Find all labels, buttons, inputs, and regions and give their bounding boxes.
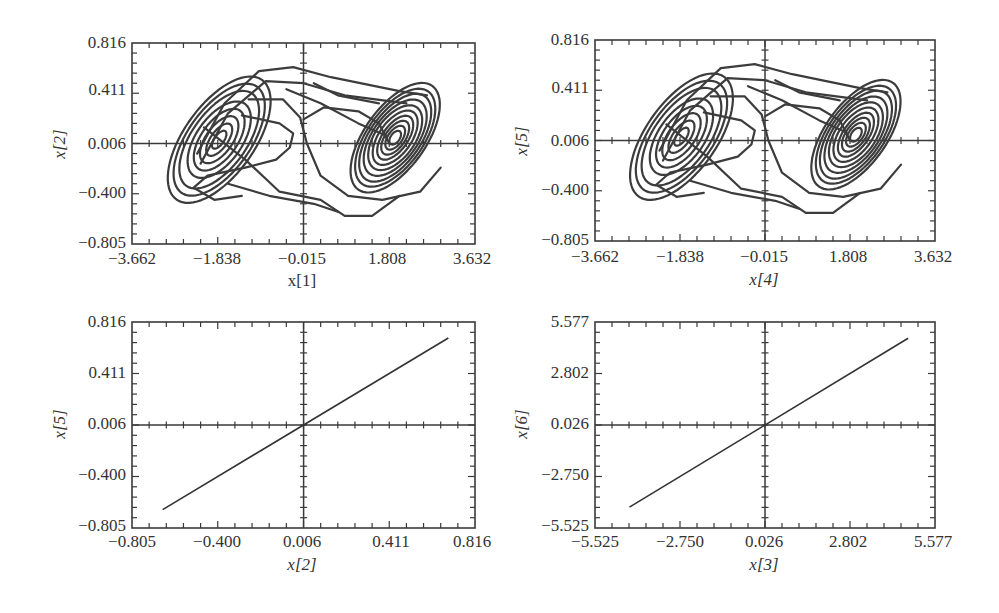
y-tick-label: −0.400: [46, 183, 126, 203]
y-tick-label: 5.577: [509, 312, 589, 332]
y-tick-label: 0.816: [509, 30, 589, 50]
y-axis-title: x[5]: [50, 394, 70, 454]
x-tick-label: 3.632: [432, 249, 512, 269]
attractor-trajectory: [228, 184, 338, 212]
attractor-trajectory: [314, 83, 379, 103]
y-tick-label: 0.816: [46, 33, 126, 53]
x-tick-label: 0.026: [724, 532, 804, 552]
x-tick-label: −3.662: [92, 249, 172, 269]
x-tick-label: −0.805: [92, 532, 172, 552]
y-tick-label: 0.411: [46, 80, 126, 100]
x-tick-label: 0.816: [432, 532, 512, 552]
x-tick-label: 1.808: [808, 247, 888, 267]
sync-line: [629, 338, 908, 507]
x-tick-label: −1.838: [177, 249, 257, 269]
y-tick-label: 0.816: [46, 312, 126, 332]
x-axis-title: x[1]: [262, 271, 342, 291]
x-tick-label: 3.632: [893, 247, 973, 267]
y-axis-title: x[2]: [50, 114, 70, 174]
x-tick-label: −1.838: [640, 247, 720, 267]
x-tick-label: −0.015: [724, 247, 804, 267]
x-axis-title: x[2]: [262, 555, 342, 575]
y-tick-label: −0.400: [46, 465, 126, 485]
y-tick-label: −0.400: [509, 180, 589, 200]
attractor-trajectory: [748, 86, 847, 132]
x-tick-label: 5.577: [893, 532, 973, 552]
y-tick-label: 2.802: [509, 363, 589, 383]
attractor-trajectory: [775, 80, 840, 100]
y-tick-label: −2.750: [509, 465, 589, 485]
x-tick-label: 1.808: [347, 249, 427, 269]
x-tick-label: −0.400: [177, 532, 257, 552]
x-axis-title: x[4]: [724, 270, 804, 290]
x-tick-label: −5.525: [555, 532, 635, 552]
y-axis-title: x[5]: [512, 111, 532, 171]
y-tick-label: 0.411: [46, 363, 126, 383]
figure-canvas: [0, 0, 999, 613]
y-tick-label: 0.411: [509, 78, 589, 98]
x-tick-label: −2.750: [640, 532, 720, 552]
x-tick-label: −0.015: [262, 249, 342, 269]
x-tick-label: −3.662: [555, 247, 635, 267]
attractor-trajectory: [286, 89, 385, 135]
x-tick-label: 2.802: [808, 532, 888, 552]
x-tick-label: 0.411: [351, 532, 431, 552]
x-tick-label: 0.006: [262, 532, 342, 552]
attractor-trajectory: [690, 181, 799, 209]
y-axis-title: x[6]: [512, 394, 532, 454]
x-axis-title: x[3]: [724, 555, 804, 575]
